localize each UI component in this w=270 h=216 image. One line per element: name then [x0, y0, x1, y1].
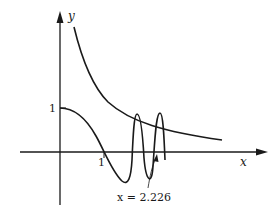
- x-axis-arrow-icon: [256, 149, 268, 156]
- oscillating-curve: [60, 108, 165, 182]
- y-axis-label: y: [67, 9, 75, 23]
- function-graph: y x 1 1 x = 2.226: [0, 0, 270, 216]
- y-tick-label: 1: [49, 102, 56, 115]
- x-tick-label: 1: [98, 156, 105, 169]
- y-axis-arrow-icon: [57, 11, 64, 23]
- decreasing-curve: [74, 27, 222, 140]
- annotation-label: x = 2.226: [117, 191, 171, 204]
- x-axis-label: x: [240, 155, 247, 169]
